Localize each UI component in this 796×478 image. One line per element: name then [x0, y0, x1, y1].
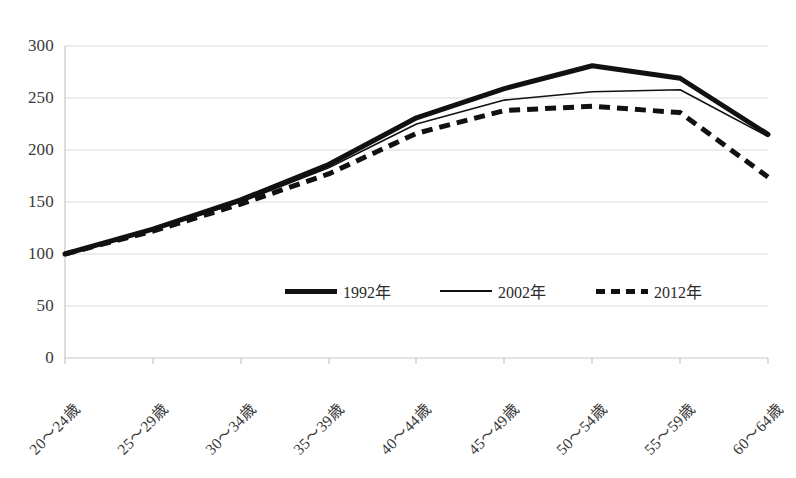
x-axis-ticks: [65, 358, 768, 364]
legend-item-2012[interactable]: 2012年: [596, 280, 702, 302]
legend-item-2002[interactable]: 2002年: [440, 280, 546, 302]
legend-label-2002: 2002年: [498, 279, 546, 303]
gridlines: [65, 46, 768, 306]
y-tick-label-100: 100: [8, 244, 54, 264]
y-tick-label-300: 300: [8, 36, 54, 56]
data-series-group: [65, 66, 768, 254]
y-tick-label-200: 200: [8, 140, 54, 160]
legend-swatch-solid-thick-icon: [285, 285, 337, 297]
series-line-2012: [65, 106, 768, 254]
line-chart: 300 250 200 150 100 50 0 20～24歳 25～29歳 3…: [0, 0, 796, 478]
legend-item-1992[interactable]: 1992年: [285, 280, 391, 302]
y-tick-label-250: 250: [8, 88, 54, 108]
legend-label-2012: 2012年: [654, 279, 702, 303]
y-tick-label-50: 50: [8, 296, 54, 316]
legend-label-1992: 1992年: [343, 279, 391, 303]
legend-swatch-solid-thin-icon: [440, 285, 492, 297]
y-tick-label-0: 0: [8, 348, 54, 368]
legend-swatch-dashed-icon: [596, 285, 648, 297]
series-line-2002: [65, 90, 768, 254]
y-tick-label-150: 150: [8, 192, 54, 212]
